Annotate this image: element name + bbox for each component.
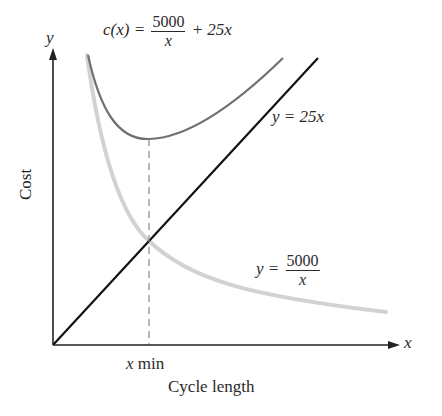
y-axis-symbol: y <box>46 28 54 48</box>
x-min-word: min <box>134 354 165 373</box>
hyperbola-curve <box>87 55 386 312</box>
y-axis-title: Cost <box>16 169 36 200</box>
total-cost-numerator: 5000 <box>151 14 185 32</box>
total-cost-label: c(x) = 5000 x + 25x <box>103 14 232 49</box>
x-min-tick-label: x min <box>126 354 164 374</box>
hyperbola-label: y = 5000 x <box>256 253 322 288</box>
linear-line-label: y = 25x <box>272 107 324 127</box>
hyperbola-denominator: x <box>286 271 320 288</box>
y-axis-arrow-icon <box>49 48 57 60</box>
x-axis-arrow-icon <box>388 341 400 349</box>
x-axis-title: Cycle length <box>168 377 254 397</box>
x-min-variable: x <box>126 354 134 373</box>
total-cost-denominator: x <box>151 32 185 49</box>
total-cost-lhs: c(x) = <box>103 20 145 39</box>
x-axis-symbol: x <box>404 333 412 353</box>
chart-canvas <box>0 0 442 416</box>
hyperbola-numerator: 5000 <box>286 253 320 271</box>
total-cost-fraction: 5000 x <box>151 14 185 49</box>
hyperbola-fraction: 5000 x <box>286 253 320 288</box>
total-cost-rhs: + 25x <box>192 20 232 39</box>
hyperbola-lhs: y = <box>256 259 279 278</box>
